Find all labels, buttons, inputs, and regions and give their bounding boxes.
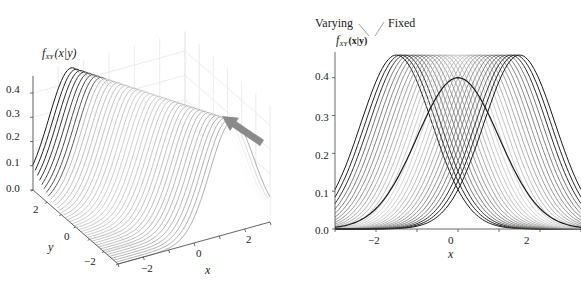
z-tick-3: 0.3 bbox=[6, 107, 20, 119]
z-tick-4: 0.4 bbox=[6, 83, 20, 95]
surface-3d-plot: 0.0 0.1 0.2 0.3 0.4 fXY(x|y) 2 0 −2 y −2… bbox=[0, 0, 300, 281]
x-tick-2: 2 bbox=[524, 234, 530, 246]
y-tick-1: 0.1 bbox=[315, 187, 329, 199]
y-tick-0: 2 bbox=[33, 203, 39, 215]
x-tick-0: −2 bbox=[141, 262, 153, 274]
y-tick-1: 0 bbox=[64, 230, 70, 242]
projection-2d-canvas: Varying Fixed fXY(x|y) 0.0 0.1 0.2 0.3 0… bbox=[300, 0, 581, 281]
y-tick-4: 0.4 bbox=[315, 70, 329, 82]
projection-2d-plot: Varying Fixed fXY(x|y) 0.0 0.1 0.2 0.3 0… bbox=[300, 0, 581, 281]
annotation-fixed: Fixed bbox=[388, 16, 415, 30]
y-tick-2: −2 bbox=[84, 255, 96, 267]
z-tick-1: 0.1 bbox=[6, 156, 20, 168]
x-tick-1: 0 bbox=[448, 234, 454, 246]
y-axis-label: y bbox=[47, 240, 54, 254]
x-axis-label: x bbox=[447, 247, 454, 261]
y-tick-2: 0.2 bbox=[315, 149, 329, 161]
y-axis-label: fXY(x|y) bbox=[336, 33, 367, 48]
annotation-varying: Varying bbox=[315, 16, 353, 30]
surface-3d-canvas: 0.0 0.1 0.2 0.3 0.4 fXY(x|y) 2 0 −2 y −2… bbox=[0, 0, 300, 281]
x-axis-label: x bbox=[204, 263, 211, 277]
x-tick-1: 0 bbox=[196, 247, 202, 259]
pdf-curves bbox=[335, 55, 581, 229]
annotation-fixed-pointer bbox=[375, 22, 384, 36]
y-tick-3: 0.3 bbox=[315, 111, 329, 123]
x-tick-2: 2 bbox=[246, 233, 252, 245]
y-tick-0: 0.0 bbox=[315, 224, 329, 236]
x-tick-0: −2 bbox=[368, 234, 380, 246]
z-tick-2: 0.2 bbox=[6, 130, 20, 142]
z-axis-label: fXY(x|y) bbox=[42, 46, 76, 61]
z-tick-0: 0.0 bbox=[6, 182, 20, 194]
